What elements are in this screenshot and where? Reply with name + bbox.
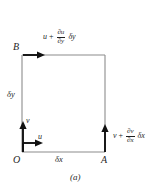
bottom-velocity-arrow [23, 139, 43, 152]
figure-container: B O A δy δx u v u + ∂u ∂y δy v + ∂v ∂x δ… [0, 0, 160, 190]
right-expr-denominator: ∂x [126, 136, 135, 145]
top-velocity-expression: u + ∂u ∂y δy [43, 29, 76, 45]
right-expr-tail: δx [138, 132, 145, 140]
dimension-label-delta-x: δx [55, 155, 63, 164]
right-expr-fraction: ∂v ∂x [126, 128, 135, 144]
right-expr-base: v [113, 132, 117, 140]
left-velocity-arrow [19, 121, 26, 152]
corner-label-a: A [101, 155, 107, 165]
velocity-diagram-canvas [0, 0, 160, 190]
corner-label-o: O [13, 155, 20, 165]
dimension-label-delta-y: δy [7, 90, 15, 99]
top-expr-base: u [43, 33, 47, 41]
top-expr-operator: + [49, 33, 54, 41]
corner-label-b: B [13, 42, 19, 52]
top-expr-tail: δy [68, 33, 75, 41]
top-expr-denominator: ∂y [57, 37, 66, 46]
right-expr-numerator: ∂v [126, 128, 135, 136]
right-expr-operator: + [118, 132, 123, 140]
fluid-element-rectangle [22, 55, 105, 152]
top-expr-fraction: ∂u ∂y [56, 29, 65, 45]
right-velocity-expression: v + ∂v ∂x δx [113, 128, 145, 144]
top-arrow-head [37, 51, 45, 58]
right-arrow-head [101, 124, 108, 132]
right-velocity-arrow [101, 124, 108, 152]
top-velocity-arrow [23, 51, 45, 58]
top-expr-numerator: ∂u [56, 29, 65, 37]
velocity-label-u: u [38, 133, 42, 141]
velocity-label-v: v [26, 117, 30, 125]
figure-caption: (a) [70, 172, 81, 182]
